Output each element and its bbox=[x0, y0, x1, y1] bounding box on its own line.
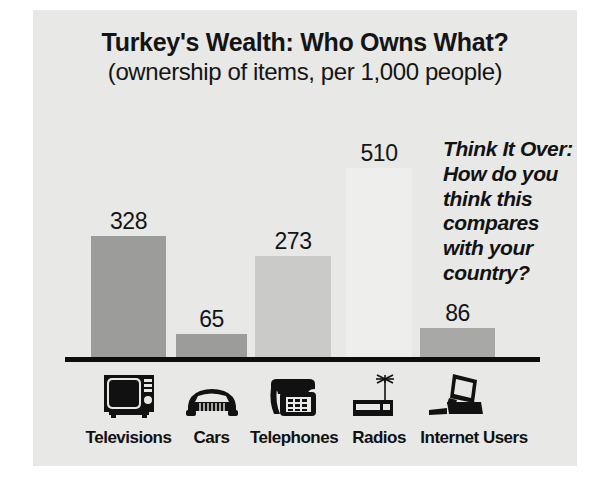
bar-telephones bbox=[255, 256, 331, 358]
bar-value-radios: 510 bbox=[346, 140, 412, 167]
axis-baseline bbox=[65, 357, 540, 362]
icon-cell-cars bbox=[176, 372, 247, 418]
bar-internet-users bbox=[420, 328, 495, 358]
think-note-line-3: think this bbox=[443, 187, 575, 212]
bar-radios bbox=[346, 168, 412, 358]
think-note-line-4: compares bbox=[443, 211, 575, 236]
icon-cell-telephones bbox=[255, 372, 331, 418]
think-note-line-1: Think It Over: bbox=[443, 137, 575, 162]
icon-cell-internet-users bbox=[420, 372, 495, 418]
icon-cell-televisions bbox=[91, 372, 166, 418]
bar-value-telephones: 273 bbox=[255, 228, 331, 255]
category-label-televisions: Televisions bbox=[81, 428, 176, 448]
car-icon bbox=[184, 384, 240, 418]
chart-figure: Turkey's Wealth: Who Owns What? (ownersh… bbox=[33, 10, 577, 466]
think-note-line-6: country? bbox=[443, 261, 575, 286]
radio-icon bbox=[351, 374, 407, 418]
bar-value-televisions: 328 bbox=[91, 208, 166, 235]
think-note-line-5: with your bbox=[443, 236, 575, 261]
category-label-cars: Cars bbox=[179, 428, 244, 448]
television-icon bbox=[103, 374, 155, 418]
telephone-icon bbox=[268, 376, 318, 418]
bar-cars bbox=[176, 334, 247, 358]
computer-icon bbox=[427, 372, 489, 418]
think-note-line-2: How do you bbox=[443, 162, 575, 187]
bar-televisions bbox=[91, 236, 166, 358]
bar-value-internet-users: 86 bbox=[420, 300, 495, 327]
category-label-internet-users: Internet Users bbox=[415, 428, 533, 448]
bar-value-cars: 65 bbox=[176, 306, 247, 333]
icon-cell-radios bbox=[346, 372, 412, 418]
category-label-radios: Radios bbox=[344, 428, 414, 448]
category-label-telephones: Telephones bbox=[246, 428, 342, 448]
think-it-over-note: Think It Over: How do you think this com… bbox=[443, 137, 575, 286]
